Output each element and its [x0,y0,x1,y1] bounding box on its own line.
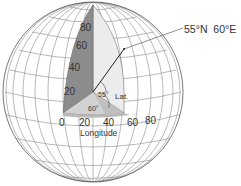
lat-tick-60: 60 [76,40,88,51]
lat-tick-40: 40 [69,62,81,73]
globe-diagram: 55°N 60°E Lat. 55° 60° 80 60 40 20 0 20 … [0,0,241,186]
lat-label: Lat. [115,92,128,101]
point-coordinates-label: 55°N 60°E [184,23,236,35]
lon-tick-20: 20 [79,117,91,128]
lat-angle-label: 55° [98,91,109,98]
lon-tick-0: 0 [59,117,65,128]
lat-tick-80: 80 [80,22,92,33]
lon-tick-80: 80 [145,115,157,126]
point-marker [123,48,125,50]
lon-tick-60: 60 [127,117,139,128]
lon-tick-40: 40 [103,117,115,128]
lat-tick-20: 20 [64,86,76,97]
longitude-axis-label: Longitude [80,128,118,138]
lon-angle-label: 60° [88,105,99,112]
